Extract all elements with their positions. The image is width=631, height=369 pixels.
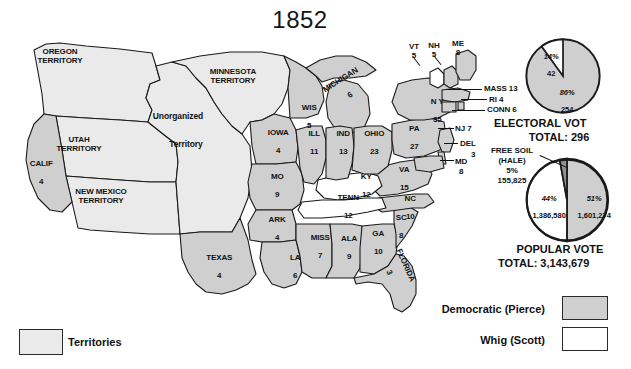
shape-north-carolina bbox=[376, 194, 434, 212]
legend-territories-label: Territories bbox=[68, 336, 122, 348]
state-ri-label: RI 4 bbox=[489, 96, 503, 105]
shape-south-carolina bbox=[394, 206, 418, 248]
electoral-whig-percent: 14% bbox=[544, 52, 559, 61]
shape-indiana bbox=[326, 126, 354, 180]
shape-ohio bbox=[352, 126, 392, 174]
leader-line-conn bbox=[452, 110, 485, 111]
popular-whig-percent: 44% bbox=[542, 194, 557, 203]
free-soil-annotation: FREE SOIL (HALE) 5% 155,825 bbox=[480, 146, 544, 186]
popular-pie-whig-value: 44% 1,386,580 bbox=[521, 186, 569, 229]
shape-louisiana bbox=[260, 240, 302, 288]
popular-dem-percent: 51% bbox=[587, 194, 602, 203]
leader-line-del bbox=[444, 143, 458, 144]
shape-rhode-island bbox=[458, 102, 464, 110]
popular-vote-total: TOTAL: 3,143,679 bbox=[490, 257, 631, 271]
electoral-dem-votes: 254 bbox=[561, 105, 574, 114]
leader-line-ri bbox=[461, 99, 487, 100]
legend-democratic-label: Democratic (Pierce) bbox=[420, 303, 545, 315]
shape-maryland bbox=[414, 156, 444, 172]
popular-dem-votes: 1,601,274 bbox=[577, 211, 610, 220]
shape-mississippi bbox=[296, 224, 332, 278]
shape-michigan-lower bbox=[326, 80, 370, 134]
popular-whig-votes: 1,386,580 bbox=[532, 211, 565, 220]
shape-arkansas bbox=[248, 210, 296, 242]
state-mass-label: MASS 13 bbox=[484, 85, 518, 94]
shape-new-jersey bbox=[438, 128, 454, 152]
election-map-figure: 1852 bbox=[0, 0, 631, 369]
shape-vermont bbox=[430, 68, 444, 88]
electoral-vote-total: TOTAL: 296 bbox=[494, 131, 624, 145]
leader-line-md bbox=[440, 160, 454, 161]
state-conn-label: CONN 6 bbox=[487, 106, 517, 115]
shape-new-mexico-territory bbox=[66, 176, 180, 234]
legend-democratic-swatch bbox=[562, 296, 608, 320]
leader-line-nj bbox=[438, 128, 454, 129]
popular-pie-dem-value: 51% 1,601,274 bbox=[565, 186, 615, 229]
shape-missouri bbox=[248, 162, 304, 210]
shape-iowa bbox=[250, 114, 298, 164]
shape-tennessee bbox=[298, 198, 386, 218]
electoral-whig-votes: 42 bbox=[547, 69, 555, 78]
electoral-dem-percent: 86% bbox=[560, 88, 575, 97]
legend-whig-swatch bbox=[562, 327, 608, 351]
shape-oregon-territory bbox=[34, 43, 160, 122]
legend-whig-label: Whig (Scott) bbox=[440, 334, 545, 346]
electoral-vote-title: ELECTORAL VOT bbox=[494, 117, 631, 131]
us-election-map bbox=[0, 22, 478, 322]
leader-line-mass bbox=[446, 89, 482, 90]
shape-maine bbox=[456, 50, 476, 80]
legend-territories-swatch bbox=[19, 329, 63, 355]
popular-vote-title: POPULAR VOTE bbox=[490, 243, 630, 257]
